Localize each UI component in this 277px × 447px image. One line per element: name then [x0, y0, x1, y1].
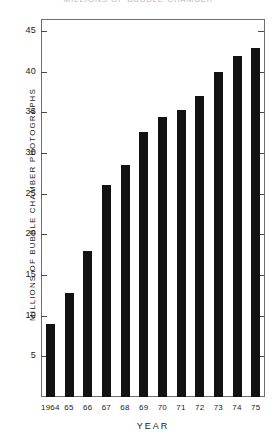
bar	[139, 132, 148, 397]
plot-area-frame	[41, 19, 265, 397]
bar	[102, 185, 111, 397]
y-tick-mark-left	[41, 234, 47, 235]
bar	[251, 48, 260, 397]
y-tick-mark-left	[41, 112, 47, 113]
bar-chart-figure: MILLIONS OF BUBBLE CHAMBER 5101520253035…	[0, 0, 277, 447]
bar	[177, 110, 186, 397]
y-tick-mark-left	[41, 316, 47, 317]
y-tick-mark-right	[258, 31, 264, 32]
bar	[121, 165, 130, 397]
y-tick-mark-left	[41, 194, 47, 195]
bar	[233, 56, 242, 397]
y-tick-mark-left	[41, 153, 47, 154]
y-axis-label: MILLIONS OF BUBBLE CHAMBER PHOTOGRAPHS	[28, 55, 37, 355]
bar	[158, 117, 167, 397]
x-tick-label: 75	[242, 404, 270, 412]
y-tick-mark-left	[41, 275, 47, 276]
chart-title: MILLIONS OF BUBBLE CHAMBER	[0, 0, 277, 4]
bar	[214, 72, 223, 397]
y-tick-mark-left	[41, 72, 47, 73]
bar	[83, 251, 92, 397]
bar	[65, 293, 74, 397]
y-tick-label: 45	[10, 26, 36, 35]
x-axis-label: YEAR	[41, 421, 265, 431]
bar	[46, 324, 55, 397]
bar	[195, 96, 204, 397]
y-tick-mark-left	[41, 31, 47, 32]
